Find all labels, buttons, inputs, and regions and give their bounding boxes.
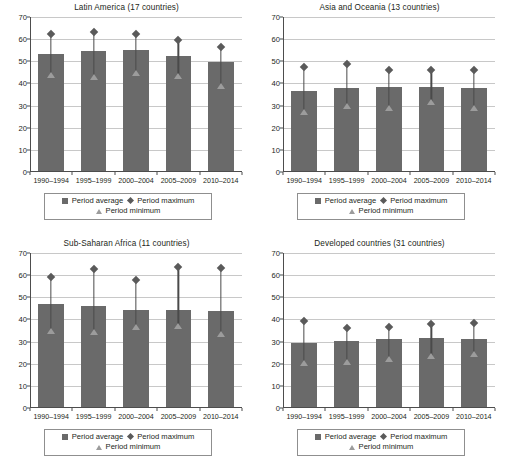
x-tick-mark bbox=[242, 408, 243, 411]
y-axis-line bbox=[30, 253, 31, 408]
period-minimum-marker bbox=[174, 73, 182, 79]
range-whisker bbox=[473, 70, 474, 108]
x-tick-mark bbox=[242, 172, 243, 175]
square-swatch-icon bbox=[62, 198, 68, 204]
period-minimum-marker bbox=[343, 103, 351, 109]
diamond-swatch-icon bbox=[127, 197, 134, 204]
legend-label-period-minimum: Period minimum bbox=[359, 442, 414, 451]
diamond-swatch-icon bbox=[380, 433, 387, 440]
legend-label-period-maximum: Period maximum bbox=[137, 432, 194, 441]
period-minimum-marker bbox=[343, 359, 351, 365]
y-axis-tick-label: 60 bbox=[19, 35, 27, 44]
chart-panel-bottom-right: Developed countries (31 countries)010203… bbox=[253, 236, 506, 472]
x-axis-tick-label: 1995–1999 bbox=[329, 177, 365, 185]
y-axis-tick-label: 50 bbox=[19, 293, 27, 302]
period-maximum-marker bbox=[217, 42, 225, 50]
gridline bbox=[283, 39, 495, 40]
legend-label-period-maximum: Period maximum bbox=[390, 432, 447, 441]
y-axis-tick-label: 50 bbox=[272, 57, 280, 66]
chart-title: Latin America (17 countries) bbox=[0, 3, 253, 12]
period-maximum-marker bbox=[174, 36, 182, 44]
legend-row-primary: Period averagePeriod maximum bbox=[45, 432, 211, 441]
diamond-swatch-icon bbox=[380, 197, 387, 204]
x-tick-mark bbox=[410, 172, 411, 175]
x-tick-mark bbox=[283, 408, 284, 411]
period-minimum-marker bbox=[427, 353, 435, 359]
plot-area: 0102030405060701990–19941995–19992000–20… bbox=[30, 17, 242, 172]
x-axis-tick-label: 1995–1999 bbox=[329, 413, 365, 421]
y-axis-tick-label: 50 bbox=[19, 57, 27, 66]
y-axis-tick-label: 60 bbox=[19, 271, 27, 280]
y-axis-tick-label: 0 bbox=[276, 404, 280, 413]
x-axis-tick-label: 1990–1994 bbox=[286, 413, 322, 421]
y-axis-tick-label: 50 bbox=[272, 293, 280, 302]
y-axis-tick-label: 20 bbox=[272, 359, 280, 368]
triangle-swatch-icon bbox=[96, 445, 102, 450]
period-maximum-marker bbox=[427, 320, 435, 328]
gridline bbox=[283, 17, 495, 18]
range-whisker bbox=[220, 268, 221, 334]
y-axis-tick-label: 70 bbox=[19, 249, 27, 258]
chart-panel-bottom-left: Sub-Saharan Africa (11 countries)0102030… bbox=[0, 236, 253, 472]
legend-item-period-average: Period average bbox=[315, 196, 377, 205]
diamond-swatch-icon bbox=[127, 433, 134, 440]
x-axis-line bbox=[30, 407, 242, 408]
period-maximum-marker bbox=[300, 317, 308, 325]
y-axis-tick-label: 10 bbox=[19, 381, 27, 390]
y-axis-tick-label: 20 bbox=[19, 123, 27, 132]
legend-row-secondary: Period minimum bbox=[298, 442, 464, 451]
legend-label-period-maximum: Period maximum bbox=[137, 196, 194, 205]
period-minimum-marker bbox=[217, 331, 225, 337]
legend-item-period-average: Period average bbox=[62, 432, 124, 441]
x-axis-tick-label: 2000–2004 bbox=[118, 413, 154, 421]
x-axis-tick-label: 2010–2014 bbox=[456, 413, 492, 421]
x-axis-line bbox=[283, 407, 495, 408]
x-tick-mark bbox=[325, 172, 326, 175]
legend-item-period-maximum: Period maximum bbox=[128, 196, 194, 205]
range-whisker bbox=[304, 67, 305, 113]
range-whisker bbox=[304, 321, 305, 363]
period-maximum-marker bbox=[385, 66, 393, 74]
period-minimum-marker bbox=[470, 351, 478, 357]
range-whisker bbox=[346, 328, 347, 362]
range-whisker bbox=[178, 40, 179, 76]
x-axis-line bbox=[283, 171, 495, 172]
period-minimum-marker bbox=[132, 324, 140, 330]
period-maximum-marker bbox=[47, 272, 55, 280]
chart-title: Asia and Oceania (13 countries) bbox=[253, 3, 506, 12]
x-tick-mark bbox=[72, 408, 73, 411]
gridline bbox=[30, 253, 242, 254]
y-axis-tick-label: 40 bbox=[19, 315, 27, 324]
gridline bbox=[283, 61, 495, 62]
period-minimum-marker bbox=[47, 72, 55, 78]
period-minimum-marker bbox=[300, 109, 308, 115]
x-tick-mark bbox=[72, 172, 73, 175]
legend-item-period-minimum: Period minimum bbox=[96, 206, 161, 215]
legend-label-period-average: Period average bbox=[325, 432, 377, 441]
x-tick-mark bbox=[114, 408, 115, 411]
x-axis-tick-label: 2000–2004 bbox=[118, 177, 154, 185]
y-axis-tick-label: 10 bbox=[272, 145, 280, 154]
range-whisker bbox=[220, 47, 221, 86]
period-minimum-marker bbox=[90, 329, 98, 335]
x-tick-mark bbox=[452, 172, 453, 175]
y-axis-tick-label: 0 bbox=[23, 168, 27, 177]
range-whisker bbox=[51, 34, 52, 74]
legend-row-secondary: Period minimum bbox=[45, 206, 211, 215]
x-tick-mark bbox=[367, 172, 368, 175]
period-maximum-marker bbox=[174, 263, 182, 271]
legend-label-period-minimum: Period minimum bbox=[106, 206, 161, 215]
x-axis-tick-label: 2005–2009 bbox=[414, 177, 450, 185]
period-minimum-marker bbox=[427, 99, 435, 105]
x-tick-mark bbox=[495, 408, 496, 411]
legend-item-period-maximum: Period maximum bbox=[381, 196, 447, 205]
y-axis-tick-label: 30 bbox=[272, 101, 280, 110]
x-axis-line bbox=[30, 171, 242, 172]
legend-row-primary: Period averagePeriod maximum bbox=[298, 432, 464, 441]
y-axis-tick-label: 30 bbox=[272, 337, 280, 346]
x-tick-mark bbox=[114, 172, 115, 175]
range-whisker bbox=[431, 324, 432, 356]
plot-area: 0102030405060701990–19941995–19992000–20… bbox=[283, 253, 495, 408]
triangle-swatch-icon bbox=[349, 209, 355, 214]
x-tick-mark bbox=[452, 408, 453, 411]
